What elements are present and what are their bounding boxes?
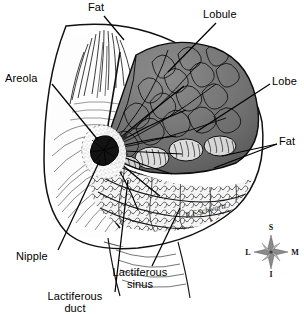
- compass-letter-superior: S: [269, 223, 274, 232]
- anatomical-orientation-compass: S M I L: [245, 223, 299, 279]
- label-lactiferous-duct: Lactiferous duct: [35, 291, 115, 314]
- compass-letter-lateral: L: [245, 248, 250, 257]
- label-lactiferous-sinus: Lactiferous sinus: [100, 267, 180, 290]
- breast-anatomy-figure: R.F.Schwartz: [0, 0, 304, 314]
- compass-letter-medial: M: [291, 248, 299, 257]
- compass-letter-inferior: I: [269, 270, 272, 279]
- label-nipple: Nipple: [16, 251, 48, 263]
- label-fat-right: Fat: [279, 136, 295, 148]
- label-fat-top: Fat: [88, 2, 104, 14]
- label-lobe: Lobe: [272, 76, 297, 88]
- label-areola: Areola: [5, 73, 37, 85]
- label-lobule: Lobule: [203, 9, 237, 21]
